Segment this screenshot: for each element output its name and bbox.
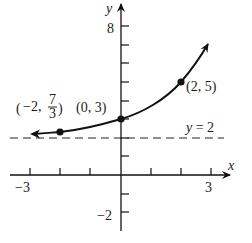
exponential-graph: y x 8 −2 −3 3 (2, 5) (0, 3) ( −2, 7 3 ) … [0,0,252,243]
point-2-5 [177,78,184,85]
point-neg2 [56,128,63,135]
svg-text:3: 3 [49,106,56,121]
svg-text:−2,: −2, [23,99,41,114]
tick-label-8: 8 [107,21,114,36]
point-0-3 [117,115,124,122]
point-a-label: ( −2, 7 3 ) [16,92,63,121]
tick-label-neg2: −2 [97,208,112,223]
point-b-label: (0, 3) [76,100,107,116]
svg-text:(: ( [16,101,21,117]
x-axis-label: x [227,158,235,173]
point-c-label: (2, 5) [186,79,217,95]
tick-label-3: 3 [205,180,212,195]
asymptote-label: y = 2 [184,120,214,135]
svg-text:7: 7 [49,92,56,107]
tick-label-neg3: −3 [15,180,30,195]
y-axis-label: y [104,1,113,16]
svg-text:): ) [58,101,63,117]
